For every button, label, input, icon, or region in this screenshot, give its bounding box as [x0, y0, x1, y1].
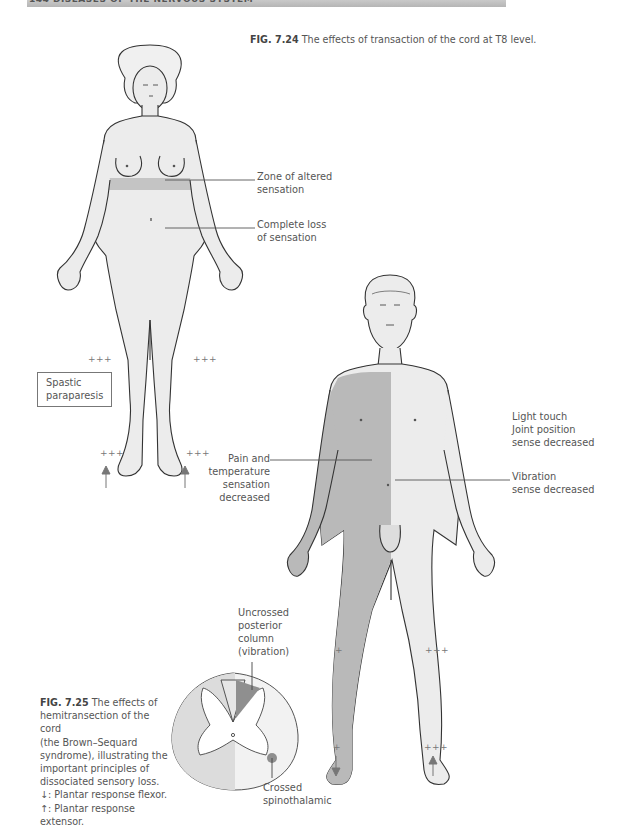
label-line: spinothalamic [263, 794, 332, 807]
caption-line: ↓: Plantar response flexor. [40, 788, 170, 801]
label-line: sense decreased [512, 436, 594, 449]
label-line: paraparesis [46, 389, 103, 402]
caption-line: The effects of [92, 697, 158, 708]
caption-line: hemitransection of the cord [40, 709, 170, 735]
label-pain-temperature: Pain and temperature sensation decreased [208, 452, 270, 504]
reflex-ankle-left-m: + [333, 742, 341, 752]
label-complete-loss: Complete loss of sensation [257, 218, 326, 244]
label-line: Spastic [46, 376, 103, 389]
label-line: posterior [238, 619, 289, 632]
fig-7-24-caption: FIG. 7.24 The effects of transaction of … [250, 33, 536, 46]
label-line: sense decreased [512, 483, 594, 496]
label-line: Vibration [512, 470, 594, 483]
male-figure [288, 275, 495, 784]
label-uncrossed-posterior-column: Uncrossed posterior column (vibration) [238, 606, 289, 658]
reflex-knee-left-m: + [335, 645, 343, 655]
label-line: Pain and [208, 452, 270, 465]
label-spastic-paraparesis: Spastic paraparesis [37, 372, 112, 407]
fig-7-25-caption: FIG. 7.25 The effects of hemitransection… [40, 696, 170, 828]
fig-7-24-number: FIG. 7.24 [250, 34, 299, 45]
fig-7-24-text: The effects of transaction of the cord a… [302, 34, 537, 45]
spinal-cord-section [172, 662, 298, 790]
caption-line: syndrome), illustrating the [40, 749, 170, 762]
label-line: Light touch [512, 410, 594, 423]
label-line: Zone of altered [257, 170, 332, 183]
label-line: Joint position [512, 423, 594, 436]
label-crossed-spinothalamic: Crossed spinothalamic [263, 781, 332, 807]
label-zone-altered: Zone of altered sensation [257, 170, 332, 196]
caption-line: important principles of [40, 762, 170, 775]
label-line: Complete loss [257, 218, 326, 231]
reflex-ankle-right-f: +++ [186, 448, 210, 458]
label-vibration: Vibration sense decreased [512, 470, 594, 496]
label-line: Crossed [263, 781, 332, 794]
label-line: temperature [208, 465, 270, 478]
reflex-ankle-right-m: +++ [424, 742, 448, 752]
reflex-knee-right-m: +++ [425, 645, 449, 655]
label-light-touch: Light touch Joint position sense decreas… [512, 410, 594, 449]
label-line: sensation [208, 478, 270, 491]
label-line: sensation [257, 183, 332, 196]
caption-line: (the Brown–Sequard [40, 736, 170, 749]
reflex-ankle-left-f: +++ [100, 448, 124, 458]
caption-line: ↑: Plantar response extensor. [40, 802, 170, 828]
label-line: (vibration) [238, 645, 289, 658]
reflex-knee-left-f: +++ [88, 354, 112, 364]
label-line: Uncrossed [238, 606, 289, 619]
label-line: decreased [208, 491, 270, 504]
reflex-knee-right-f: +++ [193, 354, 217, 364]
caption-line: dissociated sensory loss. [40, 775, 170, 788]
label-line: of sensation [257, 231, 326, 244]
female-figure [58, 45, 243, 476]
fig-7-25-number: FIG. 7.25 [40, 697, 89, 708]
label-line: column [238, 632, 289, 645]
